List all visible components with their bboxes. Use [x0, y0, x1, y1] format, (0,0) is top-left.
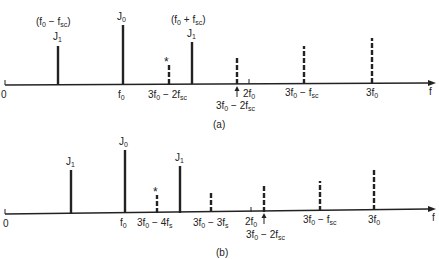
label-arrow-b: 3f0 − 2fsc: [246, 230, 285, 241]
label-j1-right-a: J1: [187, 29, 196, 40]
label-f0-a: f0: [118, 90, 125, 101]
label-star-b: *: [153, 186, 158, 198]
label-2f0-b: 2f0: [245, 217, 257, 228]
label-j1-left-a: J1: [53, 32, 62, 43]
label-3f0-4fs-b: 3f0 − 4fs: [137, 218, 173, 229]
label-j1-left-b: J1: [66, 157, 75, 168]
label-3f0-3fs-b: 3f0 − 3fs: [193, 218, 229, 229]
label-upper-sideband: (f0 + fsc): [171, 15, 206, 26]
label-j1-right-b: J1: [175, 153, 184, 164]
label-j0-b: J0: [119, 137, 128, 148]
label-origin-a: 0: [1, 90, 7, 100]
label-3f0-fsc-b: 3f0 − fsc: [303, 215, 336, 226]
label-3f0-a: 3f0: [366, 88, 378, 99]
caption-b: (b): [216, 248, 228, 258]
label-f-axis-b: f: [432, 213, 435, 223]
label-f-axis-a: f: [429, 87, 432, 97]
label-f0-b: f0: [120, 218, 127, 229]
label-2f0-a: 2f0: [243, 89, 255, 100]
label-j0-a: J0: [117, 12, 126, 23]
label-arrow-a: 3f0 − 2fsc: [216, 101, 255, 112]
label-origin-b: 0: [3, 219, 9, 229]
label-3f0-b: 3f0: [368, 215, 380, 226]
label-lower-sideband: (f0 − fsc): [36, 17, 71, 28]
caption-a: (a): [213, 120, 225, 130]
label-3f0-fsc-a: 3f0 − fsc: [285, 88, 318, 99]
label-3f0-2fsc-a: 3f0 − 2fsc: [148, 90, 187, 101]
label-star-a: *: [164, 56, 169, 68]
